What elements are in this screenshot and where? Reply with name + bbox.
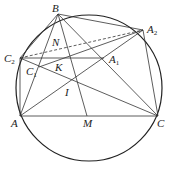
segment-b-c <box>58 14 158 116</box>
label-a1: A1 <box>108 53 120 67</box>
label-i: I <box>64 86 70 98</box>
segment-c2-a2 <box>20 30 143 58</box>
label-c: C <box>157 117 165 129</box>
label-n: N <box>51 36 60 48</box>
segment-a-a2 <box>20 30 143 116</box>
label-a2: A2 <box>146 23 158 37</box>
label-b: B <box>52 2 59 14</box>
label-m: M <box>82 117 93 129</box>
diagram-shapes <box>16 14 162 161</box>
label-a: A <box>10 117 18 129</box>
geometry-diagram: BA2C2A1C1NKIAMC <box>0 0 171 176</box>
label-c2: C2 <box>4 52 15 66</box>
label-c1: C1 <box>26 65 37 79</box>
label-k: K <box>54 61 63 73</box>
